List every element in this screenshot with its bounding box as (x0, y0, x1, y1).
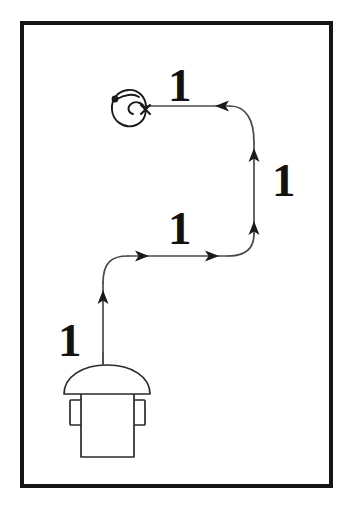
segment-label-middle: 1 (168, 205, 192, 252)
spiral-start-dot (112, 96, 119, 103)
segment-label-top: 1 (168, 62, 192, 109)
segment-label-bottom: 1 (58, 317, 82, 364)
robot-figure (64, 352, 150, 457)
path-corner-bottom-left (103, 256, 128, 283)
robot-cap (64, 365, 150, 394)
robot-body (81, 389, 134, 457)
spiral-terminus (112, 90, 150, 126)
path-corner-top-right (230, 106, 254, 142)
diagram-canvas: 1 1 1 1 (0, 0, 349, 513)
path-corner-middle-right (228, 234, 254, 256)
segment-label-right: 1 (272, 157, 296, 204)
spiral-lead-in (117, 95, 139, 99)
